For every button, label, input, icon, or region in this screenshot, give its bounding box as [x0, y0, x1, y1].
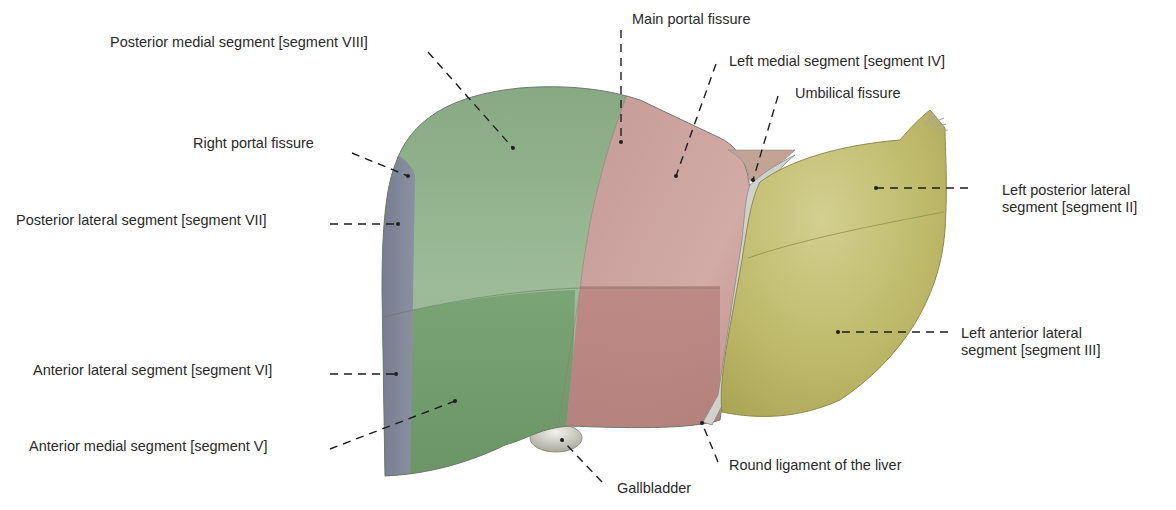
label-posterior-lateral-segment-vii: Posterior lateral segment [segment VII] [16, 212, 267, 229]
label-anterior-medial-segment-v: Anterior medial segment [segment V] [29, 438, 268, 455]
label-main-portal-fissure: Main portal fissure [632, 11, 750, 28]
label-left-medial-segment-iv: Left medial segment [segment IV] [729, 53, 945, 70]
label-left-posterior-lateral-segment-ii: Left posterior lateral segment [segment … [1002, 182, 1137, 216]
label-round-ligament: Round ligament of the liver [729, 457, 902, 474]
label-anterior-lateral-segment-vi: Anterior lateral segment [segment VI] [33, 362, 272, 379]
label-left-anterior-lateral-segment-iii: Left anterior lateral segment [segment I… [961, 325, 1100, 359]
liver-illustration [0, 0, 1176, 510]
segment-vii-vi-strip [370, 150, 415, 490]
label-right-portal-fissure: Right portal fissure [193, 135, 314, 152]
label-gallbladder: Gallbladder [617, 480, 691, 497]
segment-iv-lower-region [560, 286, 720, 490]
liver-segments-diagram: Posterior medial segment [segment VIII] … [0, 0, 1176, 510]
label-umbilical-fissure: Umbilical fissure [795, 85, 901, 102]
label-posterior-medial-segment-viii: Posterior medial segment [segment VIII] [110, 34, 368, 51]
